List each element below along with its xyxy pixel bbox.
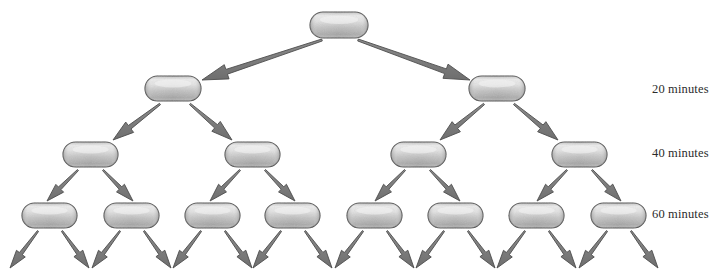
cell-r2-c1 xyxy=(225,142,280,167)
arrow-r3-c7-right xyxy=(630,231,658,268)
cell-highlight xyxy=(356,207,392,215)
cell-highlight xyxy=(320,16,358,24)
cells-layer xyxy=(22,12,646,228)
cell-r1-c1 xyxy=(469,76,525,101)
time-label-40-minutes: 40 minutes xyxy=(652,147,709,160)
arrow-r3-c0-left xyxy=(10,231,39,268)
arrow-r2-c1-right xyxy=(265,170,296,201)
cell-r1-c0 xyxy=(145,76,201,101)
arrow-r0-to-r1-left xyxy=(202,39,322,80)
cell-r3-c7 xyxy=(591,203,646,228)
arrow-r3-c4-right xyxy=(386,231,414,268)
cell-r3-c5 xyxy=(428,203,483,228)
cell-r3-c4 xyxy=(347,203,402,228)
arrow-r0-to-r1-right xyxy=(358,39,470,80)
arrow-r2-c3-right xyxy=(591,170,621,201)
arrow-r2-c3-left xyxy=(537,170,568,201)
cell-r2-c0 xyxy=(63,142,118,167)
fission-tree-canvas xyxy=(0,0,723,273)
arrow-r3-c2-right xyxy=(224,231,252,268)
cell-highlight xyxy=(561,146,597,154)
arrow-r1-to-r2-r-right xyxy=(513,103,558,140)
arrow-r3-c6-left xyxy=(497,231,526,268)
arrow-r3-c5-right xyxy=(467,231,495,268)
arrow-r2-c2-left xyxy=(375,170,406,201)
cell-highlight xyxy=(437,207,473,215)
cell-r3-c0 xyxy=(22,203,77,228)
cell-r3-c1 xyxy=(104,203,159,228)
cell-highlight xyxy=(518,207,554,215)
cell-highlight xyxy=(194,207,230,215)
arrow-r3-c1-left xyxy=(92,231,121,268)
arrow-r1-to-r2-l-left xyxy=(113,103,160,140)
arrow-r3-c4-left xyxy=(335,231,364,268)
cell-highlight xyxy=(400,146,436,154)
cell-highlight xyxy=(113,207,149,215)
bacterial-fission-diagram: 20 minutes 40 minutes 60 minutes xyxy=(0,0,723,273)
cell-highlight xyxy=(31,207,67,215)
cell-r3-c6 xyxy=(509,203,564,228)
arrow-r2-c2-right xyxy=(430,170,461,201)
arrow-r3-c1-right xyxy=(143,231,171,268)
cell-r3-c3 xyxy=(265,203,320,228)
cell-highlight xyxy=(155,80,192,88)
arrow-r3-c0-right xyxy=(61,231,89,268)
arrow-r2-c0-left xyxy=(47,170,78,201)
cell-r0-c0 xyxy=(310,12,368,38)
arrow-r3-c5-left xyxy=(416,231,445,268)
arrow-r3-c7-left xyxy=(579,231,608,268)
arrow-r1-to-r2-l-right xyxy=(189,103,232,140)
cell-highlight xyxy=(600,207,636,215)
arrow-r3-c3-right xyxy=(304,231,332,268)
cell-highlight xyxy=(274,207,310,215)
cell-highlight xyxy=(234,146,270,154)
arrow-r3-c6-right xyxy=(548,231,576,268)
arrow-r2-c0-right xyxy=(103,170,134,201)
time-label-60-minutes: 60 minutes xyxy=(652,208,709,221)
arrow-r3-c2-left xyxy=(173,231,202,268)
time-label-20-minutes: 20 minutes xyxy=(652,83,709,96)
cell-r2-c3 xyxy=(552,142,607,167)
cell-r3-c2 xyxy=(185,203,240,228)
arrow-r3-c3-left xyxy=(253,231,282,268)
cell-highlight xyxy=(72,146,108,154)
arrow-r1-to-r2-r-left xyxy=(440,103,485,140)
cell-highlight xyxy=(479,80,516,88)
arrow-r2-c1-left xyxy=(210,170,241,201)
cell-r2-c2 xyxy=(391,142,446,167)
